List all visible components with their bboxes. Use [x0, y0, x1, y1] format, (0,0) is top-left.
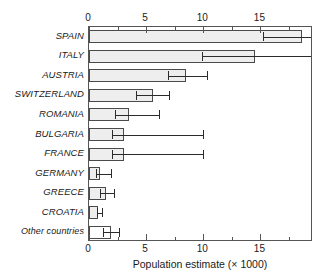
axis-tick: [175, 237, 176, 241]
error-cap-low: [100, 189, 101, 198]
plot-area: [88, 26, 312, 241]
axis-tick: [289, 237, 290, 241]
category-label-germany: GERMANY: [0, 168, 84, 178]
axis-tick: [232, 27, 233, 31]
error-cap-high: [207, 71, 208, 80]
error-cap-low: [168, 71, 169, 80]
error-bar-germany: [96, 174, 111, 175]
error-cap-high: [203, 150, 204, 159]
error-cap-low: [115, 110, 116, 119]
category-label-switzerland: SWITZERLAND: [0, 89, 84, 99]
error-cap-low: [112, 130, 113, 139]
error-bar-austria: [168, 76, 207, 77]
axis-tick: [289, 27, 290, 31]
axis-tick: [118, 27, 119, 31]
error-cap-low: [97, 208, 98, 217]
error-bar-spain: [263, 37, 312, 38]
category-label-austria: AUSTRIA: [0, 70, 84, 80]
error-cap-high: [203, 130, 204, 139]
category-label-greece: GREECE: [0, 187, 84, 197]
axis-tick: [260, 27, 261, 33]
error-cap-low: [103, 228, 104, 237]
error-cap-low: [202, 52, 203, 61]
error-cap-high: [119, 228, 120, 237]
x-tick-label-0: 0: [73, 12, 103, 23]
error-cap-high: [111, 169, 112, 178]
x-tick-label-10: 10: [187, 243, 217, 254]
axis-tick: [146, 234, 147, 240]
x-tick-label-0: 0: [73, 243, 103, 254]
error-cap-low: [112, 150, 113, 159]
axis-tick: [260, 234, 261, 240]
category-axis-labels: SPAINITALYAUSTRIASWITZERLANDROMANIABULGA…: [0, 26, 84, 241]
error-bar-greece: [100, 193, 114, 194]
error-bar-italy: [202, 56, 312, 57]
x-tick-label-10: 10: [187, 12, 217, 23]
x-tick-label-15: 15: [244, 12, 274, 23]
error-bar-bulgaria: [112, 135, 203, 136]
category-label-other-countries: Other countries: [0, 226, 84, 236]
error-cap-high: [159, 110, 160, 119]
error-cap-high: [114, 189, 115, 198]
category-label-bulgaria: BULGARIA: [0, 129, 84, 139]
category-label-romania: ROMANIA: [0, 109, 84, 119]
error-bar-france: [112, 154, 203, 155]
x-tick-label-5: 5: [130, 243, 160, 254]
x-tick-label-15: 15: [244, 243, 274, 254]
category-label-france: FRANCE: [0, 148, 84, 158]
error-cap-low: [263, 32, 264, 41]
x-axis-title: Population estimate (× 1000): [88, 258, 312, 270]
axis-tick: [118, 237, 119, 241]
axis-tick: [203, 234, 204, 240]
error-bar-switzerland: [136, 95, 169, 96]
error-bar-romania: [115, 115, 158, 116]
x-tick-label-5: 5: [130, 12, 160, 23]
error-cap-low: [136, 91, 137, 100]
error-cap-high: [169, 91, 170, 100]
axis-tick: [175, 27, 176, 31]
category-label-italy: ITALY: [0, 50, 84, 60]
axis-tick: [89, 27, 90, 33]
error-cap-low: [96, 169, 97, 178]
category-label-spain: SPAIN: [0, 31, 84, 41]
axis-tick: [203, 27, 204, 33]
axis-tick: [89, 234, 90, 240]
axis-tick: [232, 237, 233, 241]
axis-tick: [146, 27, 147, 33]
bar-chart-figure: SPAINITALYAUSTRIASWITZERLANDROMANIABULGA…: [0, 0, 328, 279]
error-cap-high: [102, 208, 103, 217]
error-bar-other-countries: [103, 232, 119, 233]
category-label-croatia: CROATIA: [0, 207, 84, 217]
